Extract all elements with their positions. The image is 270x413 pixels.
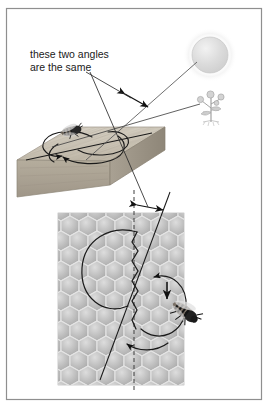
honeycomb-vertical-scene <box>43 190 206 401</box>
honeycomb-cells <box>43 201 196 401</box>
sun-icon <box>192 37 228 73</box>
annotation-line-2: are the same <box>30 61 91 73</box>
waggle-dance-figure: these two angles are the same <box>0 0 270 413</box>
figure-container: these two angles are the same <box>0 0 270 413</box>
annotation-line-1: these two angles <box>30 48 109 60</box>
